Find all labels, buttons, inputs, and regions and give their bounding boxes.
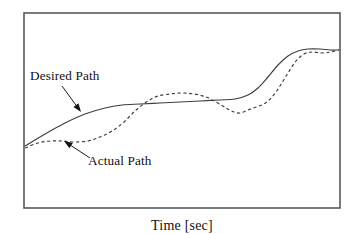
x-axis-label: Time [sec]	[151, 218, 213, 233]
desired-path-label: Desired Path	[30, 68, 100, 83]
actual-path-label: Actual Path	[88, 153, 152, 168]
plot-frame	[24, 13, 340, 208]
figure-container: Desired Path Actual Path Time [sec]	[0, 0, 360, 234]
